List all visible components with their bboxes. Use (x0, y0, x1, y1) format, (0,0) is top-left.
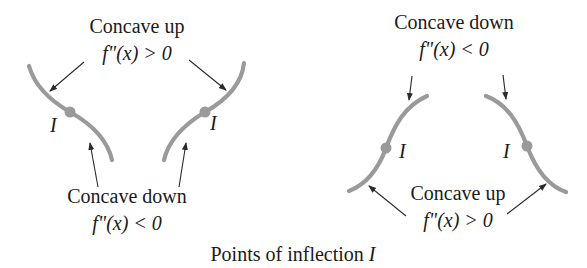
left-top-condition: f"(x) > 0 (102, 42, 172, 65)
caption-text: Points of inflection (211, 243, 369, 265)
right-curve-2-label: I (502, 140, 511, 162)
arrow-left-bottom-2 (179, 143, 186, 187)
arrow-right-bottom-1 (369, 186, 406, 216)
caption-symbol: I (368, 243, 377, 265)
right-curve-1-label: I (398, 140, 407, 162)
left-curve-1-label: I (49, 114, 58, 136)
right-group: Concave down f"(x) < 0 I I Concave up f"… (349, 11, 566, 232)
right-curve-1-inflection-point (381, 143, 392, 154)
left-bottom-title: Concave down (67, 185, 186, 207)
arrow-right-top-1 (409, 76, 412, 100)
right-top-title: Concave down (394, 11, 513, 33)
left-bottom-condition: f"(x) < 0 (92, 212, 162, 235)
arrow-right-top-2 (503, 75, 506, 99)
left-curve-2-label: I (209, 112, 218, 134)
figure-caption: Points of inflection I (211, 243, 377, 265)
left-curve-1-inflection-point (65, 107, 76, 118)
arrow-left-top-2 (189, 60, 226, 90)
arrow-right-bottom-2 (507, 184, 546, 214)
inflection-points-diagram: Concave up f"(x) > 0 I I Concave down f"… (0, 0, 587, 268)
right-curve-2-inflection-point (522, 141, 533, 152)
right-top-condition: f"(x) < 0 (419, 38, 489, 61)
arrow-left-top-1 (50, 62, 84, 91)
right-bottom-condition: f"(x) > 0 (423, 209, 493, 232)
left-top-title: Concave up (90, 15, 185, 38)
right-bottom-title: Concave up (411, 182, 506, 205)
left-curve-2-inflection-point (200, 107, 211, 118)
left-group: Concave up f"(x) > 0 I I Concave down f"… (29, 15, 244, 235)
arrow-left-bottom-1 (90, 143, 98, 187)
